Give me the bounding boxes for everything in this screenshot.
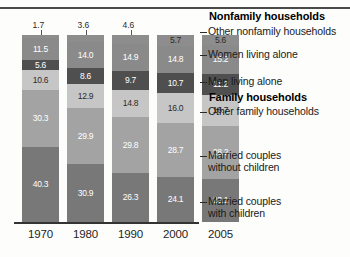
legend-label: Other family households bbox=[208, 106, 319, 118]
bar-segment: 5.7 bbox=[157, 35, 194, 46]
segment-value-label: 14.9 bbox=[123, 53, 139, 62]
bar-column-1990: 14.99.714.829.826.3 bbox=[112, 35, 149, 222]
segment-value-label: 16.0 bbox=[168, 104, 184, 113]
legend-entry-other-family-households: Other family households bbox=[200, 106, 319, 118]
bar-segment: 8.6 bbox=[67, 68, 104, 84]
leader-line-icon bbox=[200, 156, 207, 157]
bar-segment: 29.9 bbox=[67, 108, 104, 164]
bar-segment bbox=[67, 35, 104, 42]
bar-segment: 9.7 bbox=[112, 71, 149, 89]
segment-value-label: 10.7 bbox=[168, 79, 184, 88]
bar-column-1980: 14.08.612.929.930.9 bbox=[67, 35, 104, 222]
segment-value-label: 29.8 bbox=[123, 141, 139, 150]
bar-segment: 24.1 bbox=[157, 177, 194, 222]
legend-entry-men-living-alone: Men living alone bbox=[200, 76, 282, 88]
legend-entry-married-couples-without-children: Married couples without children bbox=[200, 150, 281, 173]
bar-segment: 30.3 bbox=[22, 90, 59, 147]
x-axis-year-label-2005: 2005 bbox=[202, 228, 239, 240]
legend-entry-other-nonfamily-households: Other nonfamily households bbox=[200, 26, 336, 38]
bar-segment: 10.6 bbox=[22, 70, 59, 90]
segment-value-label: 28.7 bbox=[168, 146, 184, 155]
legend-label: Other nonfamily households bbox=[208, 26, 336, 38]
legend-label: Men living alone bbox=[208, 76, 282, 88]
legend-label-line-2: without children bbox=[208, 161, 279, 173]
legend-group-header-family: Family households bbox=[209, 91, 307, 103]
bar-segment: 14.9 bbox=[112, 44, 149, 72]
leader-line-icon bbox=[200, 82, 207, 83]
legend-label-multiline: Married couples with children bbox=[208, 196, 281, 219]
x-axis-year-label-1970: 1970 bbox=[22, 228, 59, 240]
segment-value-label: 14.0 bbox=[78, 51, 94, 60]
legend-entry-married-couples-with-children: Married couples with children bbox=[200, 196, 281, 219]
leader-line-icon bbox=[200, 112, 207, 113]
segment-value-label-outside: 4.6 bbox=[123, 21, 135, 30]
legend-callouts: Nonfamily households Other nonfamily hou… bbox=[200, 0, 350, 257]
bar-column-2000: 5.714.810.716.028.724.1 bbox=[157, 35, 194, 222]
bar-column-1970: 11.55.610.630.340.3 bbox=[22, 35, 59, 222]
segment-value-label: 24.1 bbox=[168, 195, 184, 204]
x-axis-year-label-1980: 1980 bbox=[67, 228, 104, 240]
plot-area: 1.711.55.610.630.340.33.614.08.612.929.9… bbox=[0, 0, 200, 257]
segment-value-label: 30.9 bbox=[78, 189, 94, 198]
bar-segment: 29.8 bbox=[112, 117, 149, 173]
segment-value-label: 30.3 bbox=[33, 114, 49, 123]
segment-value-label: 11.5 bbox=[33, 45, 48, 54]
legend-label-line-1: Married couples bbox=[208, 149, 281, 161]
bar-segment: 12.9 bbox=[67, 84, 104, 108]
segment-value-label: 40.3 bbox=[33, 180, 49, 189]
bar-segment: 11.5 bbox=[22, 38, 59, 60]
segment-value-label: 5.7 bbox=[170, 36, 181, 45]
x-axis-year-label-1990: 1990 bbox=[112, 228, 149, 240]
leader-line-icon bbox=[200, 55, 207, 56]
bar-segment: 14.0 bbox=[67, 42, 104, 68]
segment-value-label: 5.6 bbox=[35, 61, 46, 70]
segment-value-label: 26.3 bbox=[123, 193, 139, 202]
bar-segment: 16.0 bbox=[157, 93, 194, 123]
x-axis-year-label-2000: 2000 bbox=[157, 228, 194, 240]
legend-label-multiline: Married couples without children bbox=[208, 150, 281, 173]
legend-entry-women-living-alone: Women living alone bbox=[200, 49, 298, 61]
segment-value-label: 12.9 bbox=[78, 92, 94, 101]
stacked-bar-chart: 1.711.55.610.630.340.33.614.08.612.929.9… bbox=[0, 0, 350, 257]
bar-segment bbox=[112, 35, 149, 44]
leader-line-icon bbox=[200, 32, 207, 33]
bar-segment: 5.6 bbox=[22, 60, 59, 70]
legend-label: Women living alone bbox=[208, 49, 298, 61]
segment-value-label: 29.9 bbox=[78, 132, 94, 141]
bar-segment: 30.9 bbox=[67, 164, 104, 222]
segment-value-label: 14.8 bbox=[168, 55, 184, 64]
segment-value-label: 8.6 bbox=[80, 72, 91, 81]
bar-segment: 26.3 bbox=[112, 173, 149, 222]
bar-segment: 28.7 bbox=[157, 123, 194, 177]
segment-value-label: 10.6 bbox=[33, 76, 49, 85]
legend-label-line-1: Married couples bbox=[208, 195, 281, 207]
bar-segment: 14.8 bbox=[112, 90, 149, 118]
legend-label-line-2: with children bbox=[208, 207, 265, 219]
legend-group-header-nonfamily: Nonfamily households bbox=[209, 10, 325, 22]
bar-segment: 14.8 bbox=[157, 46, 194, 74]
bar-segment: 10.7 bbox=[157, 73, 194, 93]
x-axis-line bbox=[14, 222, 199, 224]
segment-value-label: 14.8 bbox=[123, 99, 139, 108]
leader-line-icon bbox=[200, 202, 207, 203]
segment-value-label-outside: 3.6 bbox=[78, 21, 90, 30]
bar-segment: 40.3 bbox=[22, 147, 59, 222]
segment-value-label: 9.7 bbox=[125, 76, 136, 85]
segment-value-label-outside: 1.7 bbox=[33, 21, 45, 30]
